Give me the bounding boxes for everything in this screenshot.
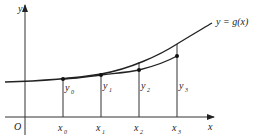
- svg-text:1: 1: [109, 87, 112, 93]
- y-label-y3: y 3: [178, 80, 188, 93]
- origin-label: O: [14, 121, 21, 132]
- svg-text:3: 3: [177, 129, 181, 135]
- svg-text:0: 0: [71, 89, 74, 95]
- curve-label: y = g(x): [215, 16, 249, 28]
- svg-text:y: y: [102, 80, 108, 91]
- svg-text:2: 2: [147, 87, 150, 93]
- x-tick-x0: x 0: [57, 122, 67, 135]
- svg-text:2: 2: [140, 129, 143, 135]
- x-tick-x1: x 1: [95, 122, 105, 135]
- y-label-y2: y 2: [140, 80, 150, 93]
- svg-text:x: x: [171, 122, 177, 133]
- x-tick-x2: x 2: [133, 122, 143, 135]
- diagram-canvas: y x O y = g(x) x 0 x 1 x 2 x 3 y 0 y 1: [0, 0, 253, 139]
- point-y3: [175, 54, 179, 58]
- svg-text:x: x: [133, 122, 139, 133]
- svg-text:y: y: [64, 82, 70, 93]
- svg-text:0: 0: [64, 129, 67, 135]
- point-y0: [61, 77, 65, 81]
- svg-text:y: y: [140, 80, 146, 91]
- point-y1: [99, 73, 103, 77]
- svg-text:x: x: [57, 122, 63, 133]
- svg-text:x: x: [95, 122, 101, 133]
- approximation-curve: [63, 56, 177, 79]
- point-y2: [137, 68, 141, 72]
- y-label-y0: y 0: [64, 82, 74, 95]
- svg-text:1: 1: [102, 129, 105, 135]
- curve-g: [5, 23, 212, 82]
- svg-text:y: y: [178, 80, 184, 91]
- x-tick-x3: x 3: [171, 122, 181, 135]
- y-axis-label: y: [17, 3, 23, 14]
- euler-method-diagram: y x O y = g(x) x 0 x 1 x 2 x 3 y 0 y 1: [0, 0, 253, 139]
- x-axis-label: x: [207, 121, 213, 132]
- y-label-y1: y 1: [102, 80, 112, 93]
- svg-text:3: 3: [184, 87, 188, 93]
